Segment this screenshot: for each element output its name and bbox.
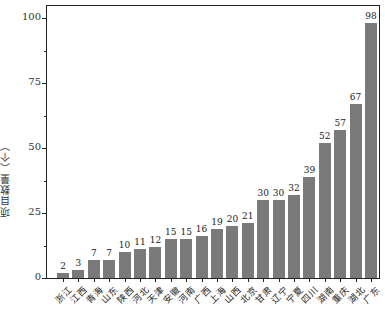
bar-value-label: 21	[236, 211, 260, 221]
x-tick	[263, 278, 264, 282]
bar-广西	[196, 236, 208, 278]
bar-湖北	[350, 104, 362, 278]
bar-安徽	[165, 239, 177, 278]
bar-湖南	[319, 143, 331, 278]
y-tick-label: 25	[15, 206, 41, 217]
bar-上海	[211, 229, 223, 278]
x-tick	[294, 278, 295, 282]
x-tick	[78, 278, 79, 282]
x-tick	[217, 278, 218, 282]
bar-value-label: 39	[297, 165, 321, 175]
y-tick-label: 50	[15, 141, 41, 152]
x-tick	[325, 278, 326, 282]
y-tick	[42, 18, 47, 19]
x-tick	[171, 278, 172, 282]
bar-广东	[365, 23, 377, 278]
y-minor-tick	[44, 181, 47, 182]
y-minor-tick	[44, 246, 47, 247]
y-tick	[42, 148, 47, 149]
bar-value-label: 3	[66, 258, 90, 268]
x-tick	[125, 278, 126, 282]
x-tick	[186, 278, 187, 282]
bar-重庆	[334, 130, 346, 278]
x-tick	[140, 278, 141, 282]
bar-山东	[103, 260, 115, 278]
bar-value-label: 67	[344, 92, 368, 102]
x-tick	[356, 278, 357, 282]
x-tick	[109, 278, 110, 282]
x-tick	[232, 278, 233, 282]
bar-河北	[134, 249, 146, 278]
y-minor-tick	[44, 116, 47, 117]
x-tick	[371, 278, 372, 282]
y-minor-tick	[44, 51, 47, 52]
x-tick	[309, 278, 310, 282]
y-tick	[42, 213, 47, 214]
bar-江西	[72, 270, 84, 278]
x-tick	[63, 278, 64, 282]
bar-value-label: 52	[313, 131, 337, 141]
plot-area: 02550751002浙江3江西7青海7山东10陕西11河北12天津15安徽15…	[46, 5, 380, 279]
x-tick-label: 广东	[360, 284, 382, 306]
x-tick	[94, 278, 95, 282]
y-tick-label: 0	[15, 271, 41, 282]
bar-青海	[88, 260, 100, 278]
bar-北京	[242, 223, 254, 278]
bar-宁夏	[288, 195, 300, 278]
x-tick	[248, 278, 249, 282]
x-tick	[340, 278, 341, 282]
bar-天津	[149, 247, 161, 278]
bar-辽宁	[273, 200, 285, 278]
bar-value-label: 57	[328, 118, 352, 128]
y-tick-label: 75	[15, 76, 41, 87]
bar-陕西	[119, 252, 131, 278]
bar-河南	[180, 239, 192, 278]
bar-山西	[226, 226, 238, 278]
bar-四川	[303, 177, 315, 278]
y-axis-title: 项目数量（个）	[0, 140, 13, 217]
bar-甘肃	[257, 200, 269, 278]
x-tick	[155, 278, 156, 282]
y-tick	[42, 83, 47, 84]
bar-value-label: 32	[282, 183, 306, 193]
bar-value-label: 98	[359, 11, 383, 21]
y-tick	[42, 278, 47, 279]
y-tick-label: 100	[15, 11, 41, 22]
x-tick	[279, 278, 280, 282]
x-tick	[202, 278, 203, 282]
